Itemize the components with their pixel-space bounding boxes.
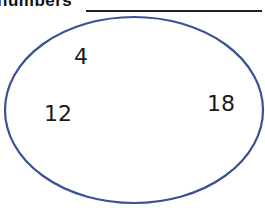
- set-member-4: 4: [74, 46, 88, 68]
- set-member-18: 18: [207, 93, 235, 115]
- set-member-12: 12: [44, 103, 72, 125]
